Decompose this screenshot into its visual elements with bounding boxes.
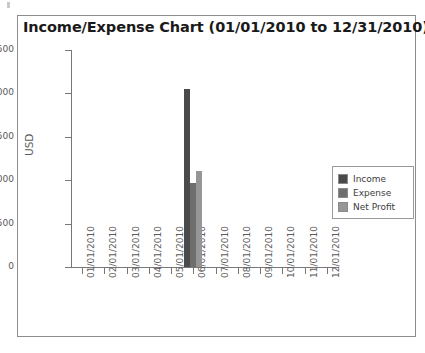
x-axis-tick <box>193 268 194 274</box>
legend-item-label: Net Profit <box>353 202 395 212</box>
legend-item-label: Expense <box>353 188 391 198</box>
x-axis-tick <box>327 268 328 274</box>
y-axis-tick-label: 1000 <box>0 174 14 184</box>
legend-swatch-icon <box>338 202 348 212</box>
x-axis-tick <box>171 268 172 274</box>
x-axis-tick <box>238 268 239 274</box>
x-axis-tick <box>260 268 261 274</box>
x-axis-tick <box>149 268 150 274</box>
chart-title: Income/Expense Chart (01/01/2010 to 12/3… <box>23 19 421 35</box>
legend-swatch-icon <box>338 188 348 198</box>
stray-mark <box>7 2 10 8</box>
x-axis-tick <box>127 268 128 274</box>
x-axis-tick <box>305 268 306 274</box>
legend-item[interactable]: Income <box>338 172 407 185</box>
legend-item-label: Income <box>353 174 386 184</box>
bar <box>196 171 202 267</box>
x-axis-tick <box>216 268 217 274</box>
plot-area <box>71 50 338 267</box>
chart-legend: IncomeExpenseNet Profit <box>332 166 414 219</box>
x-axis-tick <box>82 268 83 274</box>
legend-swatch-icon <box>338 174 348 184</box>
x-axis-tick <box>104 268 105 274</box>
y-axis-tick-label: 2500 <box>0 44 14 54</box>
chart-panel: Income/Expense Chart (01/01/2010 to 12/3… <box>17 15 416 337</box>
y-axis-tick-label: 0 <box>8 261 14 271</box>
legend-item[interactable]: Expense <box>338 186 407 199</box>
y-axis-tick-label: 500 <box>0 218 14 228</box>
x-axis-tick <box>282 268 283 274</box>
y-axis-tick-label: 1500 <box>0 131 14 141</box>
y-axis-tick-label: 2000 <box>0 87 14 97</box>
legend-item[interactable]: Net Profit <box>338 200 407 213</box>
